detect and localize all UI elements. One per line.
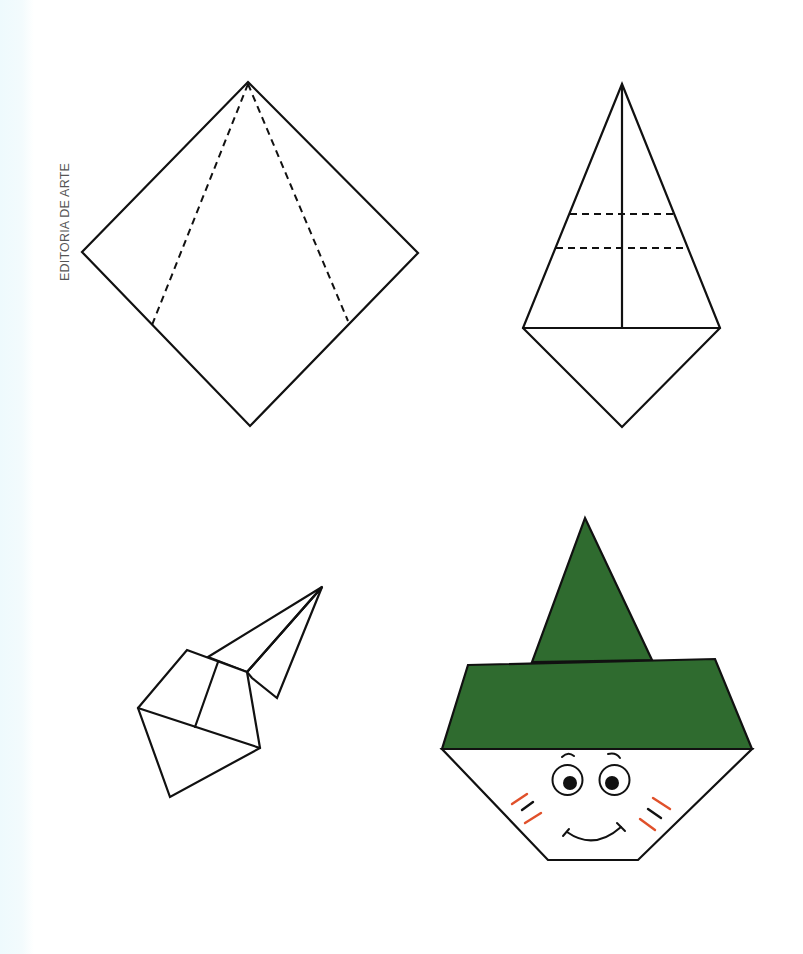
face-shape — [442, 749, 752, 860]
left-pupil — [563, 776, 577, 790]
figure-step-3 — [138, 587, 322, 797]
figure-step-2 — [523, 84, 720, 427]
origami-instructions — [0, 0, 803, 954]
figure-step-1 — [82, 82, 418, 426]
page: EDITORIA DE ARTE — [0, 0, 803, 954]
right-pupil — [605, 776, 619, 790]
hat-brim — [442, 659, 752, 749]
hat-cone — [532, 518, 652, 662]
diamond-outline — [82, 82, 418, 426]
figure-step-4 — [442, 518, 752, 860]
folded-body — [138, 650, 260, 797]
